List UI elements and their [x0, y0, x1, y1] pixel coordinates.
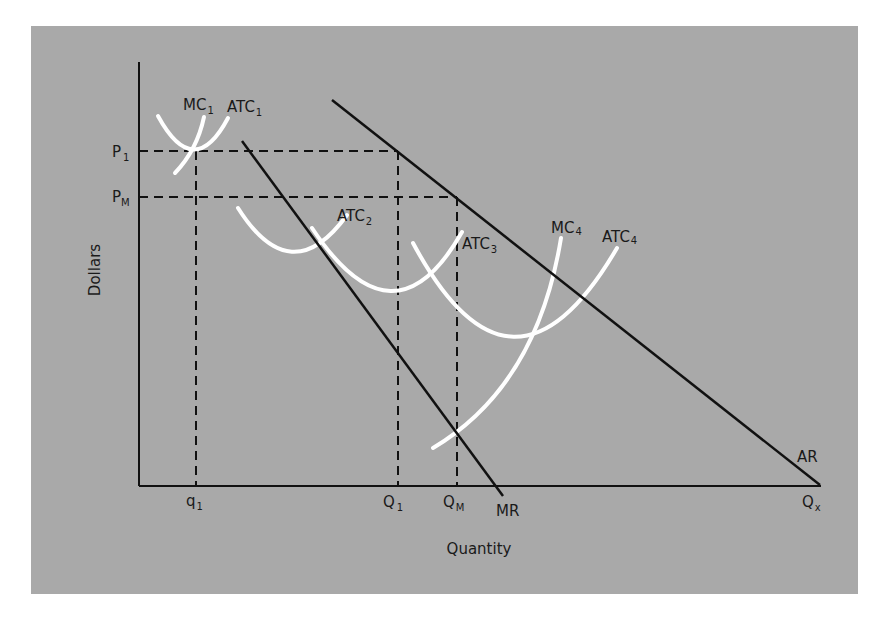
x-axis-label: Quantity: [447, 540, 512, 558]
dashed-guides: [139, 151, 457, 486]
atc3-label: ATC3: [462, 235, 497, 255]
mr-line: [242, 141, 503, 496]
atc1-label: ATC1: [227, 98, 262, 118]
q1-label: Q1: [383, 493, 403, 513]
y-axis-label: Dollars: [86, 244, 104, 296]
ar-line: [332, 100, 820, 485]
qx-label: Qx: [802, 493, 821, 513]
mc4-label: MC4: [551, 219, 582, 237]
atc2-label: ATC2: [337, 207, 372, 227]
cost-curves: [158, 116, 617, 448]
mc1-label: MC1: [183, 96, 214, 116]
mr-label: MR: [496, 502, 519, 520]
pm-label: PM: [112, 188, 130, 208]
p1-label: P1: [112, 143, 129, 163]
atc2-curve: [238, 208, 347, 252]
ar-label: AR: [797, 448, 818, 466]
qm-label: QM: [443, 493, 464, 513]
economics-diagram: Dollars Quantity P1 PM q1 Q1 QM Qx MC1 A…: [0, 0, 886, 618]
q1-small-label: q1: [186, 492, 203, 512]
mc4-curve: [433, 238, 561, 448]
atc3-curve: [312, 228, 462, 291]
atc4-label: ATC4: [602, 228, 637, 246]
